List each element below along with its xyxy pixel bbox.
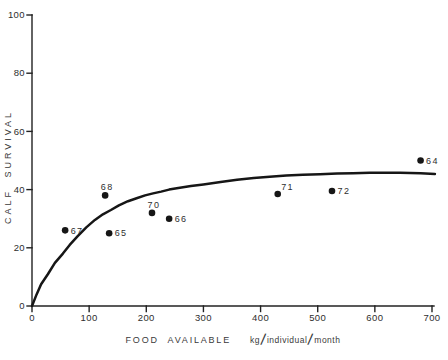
y-tick-label: 0 <box>19 300 25 311</box>
data-point-67 <box>62 227 69 234</box>
x-axis-title-text: FOOD AVAILABLE <box>126 335 231 345</box>
data-point-71 <box>274 191 281 198</box>
x-tick-label: 600 <box>366 312 383 323</box>
x-tick-label: 0 <box>29 312 35 323</box>
x-tick-label: 500 <box>309 312 326 323</box>
y-tick-label: 100 <box>8 9 25 20</box>
data-point-label-64: 64 <box>426 156 439 166</box>
data-point-label-72: 72 <box>338 186 351 196</box>
data-point-64 <box>417 157 424 164</box>
x-tick-label: 400 <box>252 312 269 323</box>
data-point-label-71: 71 <box>281 182 294 192</box>
data-point-label-65: 65 <box>115 228 128 238</box>
data-point-label-66: 66 <box>175 214 188 224</box>
data-point-label-68: 68 <box>101 182 114 192</box>
fitted-curve <box>32 173 435 306</box>
y-tick-label: 60 <box>14 126 25 137</box>
unit-slash-separator: / <box>261 340 266 341</box>
x-axis-title: FOOD AVAILABLE kg/individual/month <box>32 330 434 350</box>
data-point-label-67: 67 <box>71 226 84 236</box>
x-axis-unit: kg/individual/month <box>250 335 340 345</box>
x-tick-label: 100 <box>81 312 98 323</box>
plot-area: 0204060801000100200300400500600700646566… <box>0 0 448 360</box>
y-axis-title: CALF SURVIVAL <box>3 110 13 224</box>
x-tick-label: 300 <box>195 312 212 323</box>
y-tick-label: 20 <box>14 242 25 253</box>
unit-part: individual <box>267 335 307 345</box>
data-point-72 <box>329 188 336 195</box>
x-tick-label: 200 <box>138 312 155 323</box>
data-point-68 <box>102 192 109 199</box>
data-point-66 <box>166 215 173 222</box>
data-point-label-70: 70 <box>148 200 161 210</box>
data-point-65 <box>106 230 113 237</box>
y-tick-label: 40 <box>14 184 25 195</box>
data-point-70 <box>149 210 156 217</box>
y-tick-label: 80 <box>14 67 25 78</box>
x-tick-label: 700 <box>423 312 440 323</box>
calf-survival-vs-food-figure: 0204060801000100200300400500600700646566… <box>0 0 448 360</box>
unit-part: kg <box>250 335 260 345</box>
unit-slash-separator: / <box>308 340 313 341</box>
unit-part: month <box>314 335 340 345</box>
